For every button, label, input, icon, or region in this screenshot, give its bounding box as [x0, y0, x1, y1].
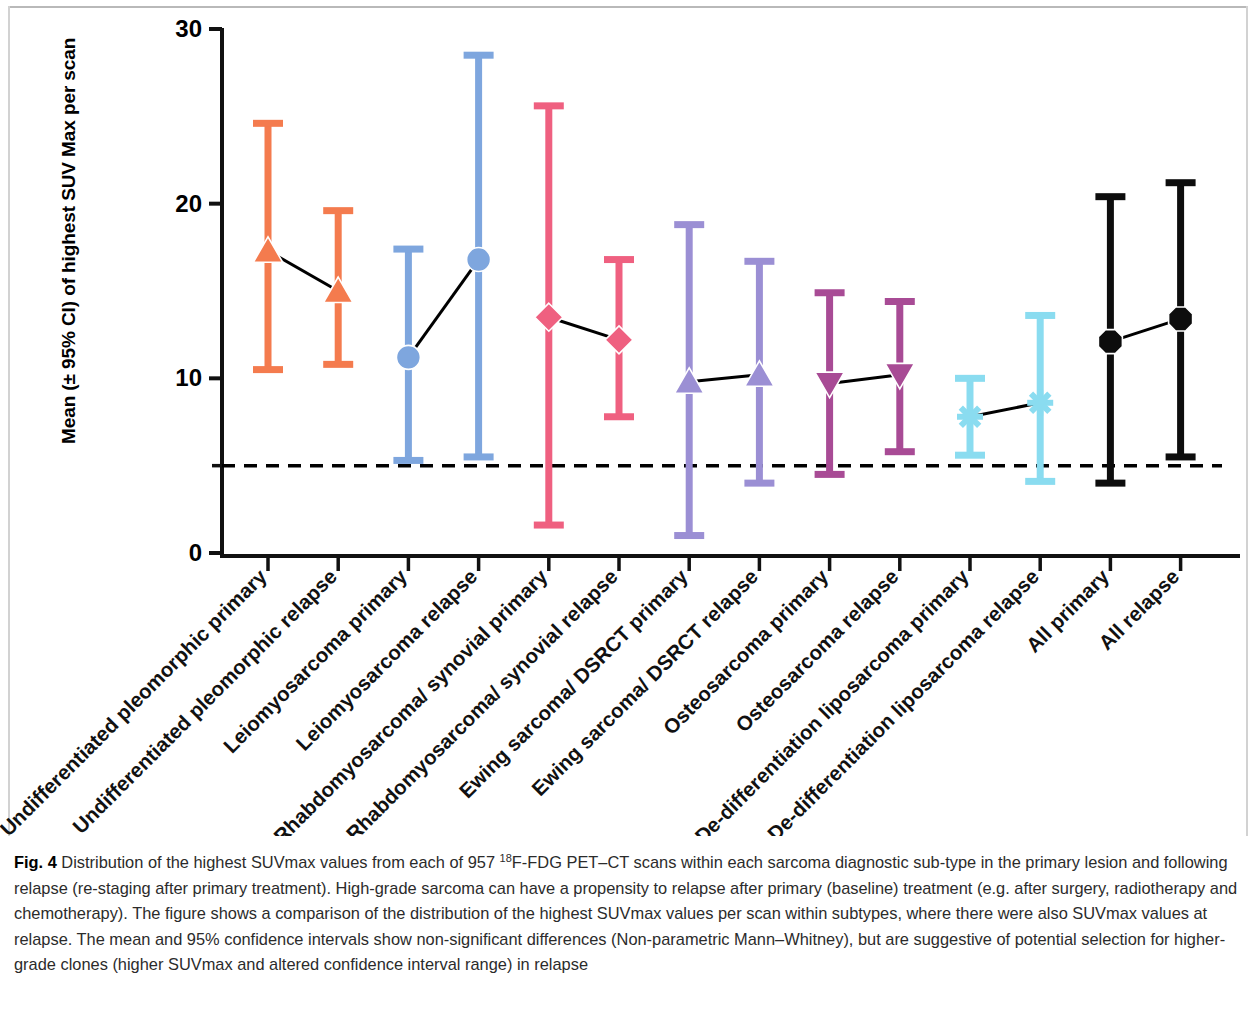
- data-point-marker-octagon[interactable]: [1169, 307, 1193, 331]
- errorbar-group: [253, 55, 1196, 535]
- marker-group: [253, 237, 1192, 430]
- data-point-marker-triangle-down[interactable]: [815, 372, 844, 397]
- figure-label: Fig. 4: [14, 853, 57, 871]
- y-tick-label: 10: [175, 364, 202, 391]
- figure-caption: Fig. 4 Distribution of the highest SUVma…: [14, 846, 1242, 978]
- data-point-marker-asterisk[interactable]: [957, 404, 983, 430]
- x-tick-label: Undifferentiated pleomorphic relapse: [68, 565, 341, 836]
- data-point-marker-triangle-up[interactable]: [324, 277, 353, 302]
- data-point-marker-diamond[interactable]: [535, 303, 563, 331]
- data-point-marker-circle[interactable]: [396, 345, 420, 369]
- data-point-marker-asterisk[interactable]: [1027, 390, 1053, 416]
- x-axis-tick-group: [268, 556, 1181, 571]
- errorbar-chart: 0102030 Undifferentiated pleomorphic pri…: [0, 0, 1256, 836]
- figure-panel: Mean (± 95% CI) of highest SUV Max per s…: [0, 0, 1256, 836]
- y-tick-label: 30: [175, 15, 202, 42]
- caption-superscript: 18: [500, 852, 512, 864]
- caption-text-part-2: F-FDG PET–CT scans within each sarcoma d…: [14, 853, 1237, 973]
- connector-line: [408, 260, 478, 358]
- x-axis-label-group: Undifferentiated pleomorphic primaryUndi…: [0, 564, 1183, 836]
- data-point-marker-triangle-up[interactable]: [745, 361, 774, 386]
- data-point-marker-circle[interactable]: [467, 248, 491, 272]
- axis-lines: [220, 28, 1240, 556]
- caption-text-part-1: Distribution of the highest SUVmax value…: [57, 853, 500, 871]
- data-point-marker-octagon[interactable]: [1098, 330, 1122, 354]
- y-tick-label: 0: [189, 539, 202, 566]
- y-axis-group: 0102030: [175, 15, 222, 566]
- y-tick-label: 20: [175, 190, 202, 217]
- connector-lines: [268, 251, 1181, 417]
- x-tick-label: Undifferentiated pleomorphic primary: [0, 564, 271, 836]
- data-point-marker-diamond[interactable]: [605, 326, 633, 354]
- data-point-marker-triangle-up[interactable]: [253, 237, 282, 262]
